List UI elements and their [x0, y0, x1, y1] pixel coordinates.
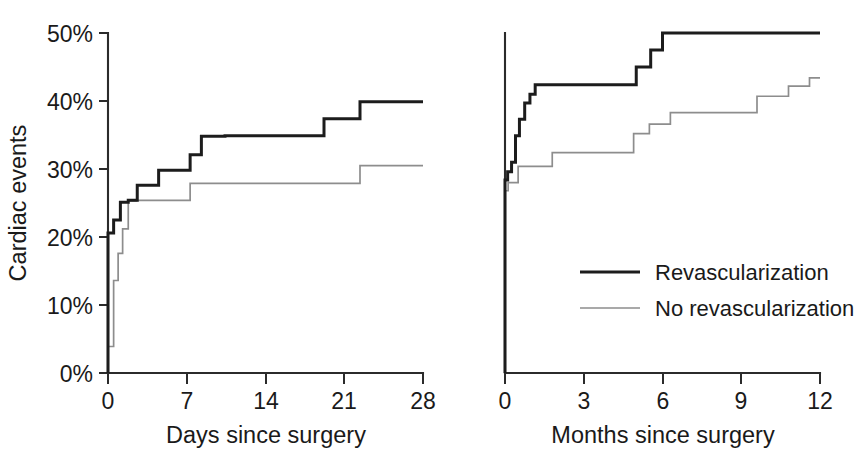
- left-ytick-label-40: 40%: [47, 89, 93, 115]
- left-ytick-label-0: 0%: [60, 361, 93, 387]
- left-xtick-label-7: 7: [181, 388, 194, 414]
- left-x-axis-title: Days since surgery: [166, 422, 366, 448]
- left-ytick-label-10: 10%: [47, 293, 93, 319]
- legend: Revascularization No revascularization: [580, 260, 854, 321]
- right-curve-no-revascularization: [505, 78, 820, 373]
- right-xtick-label-6: 6: [657, 388, 670, 414]
- figure-container: 50% 40% 30% 20% 10% 0% 0 7 14 21: [0, 0, 855, 459]
- left-xtick-label-21: 21: [331, 388, 357, 414]
- legend-label-revascularization: Revascularization: [655, 260, 829, 285]
- left-panel: 50% 40% 30% 20% 10% 0% 0 7 14 21: [5, 21, 436, 448]
- y-axis-title: Cardiac events: [5, 125, 31, 282]
- right-xtick-label-9: 9: [735, 388, 748, 414]
- left-xtick-label-14: 14: [253, 388, 279, 414]
- kaplan-meier-chart: 50% 40% 30% 20% 10% 0% 0 7 14 21: [0, 0, 855, 459]
- right-xtick-label-0: 0: [499, 388, 512, 414]
- right-xtick-label-3: 3: [578, 388, 591, 414]
- right-x-tick-labels: 0 3 6 9 12: [499, 388, 833, 414]
- left-x-tick-labels: 0 7 14 21 28: [102, 388, 436, 414]
- right-curve-revascularization: [505, 33, 820, 373]
- left-ytick-label-30: 30%: [47, 157, 93, 183]
- right-x-axis-title: Months since surgery: [551, 422, 775, 448]
- left-ytick-label-20: 20%: [47, 225, 93, 251]
- left-xtick-label-28: 28: [410, 388, 436, 414]
- right-x-ticks: [505, 373, 820, 384]
- left-xtick-label-0: 0: [102, 388, 115, 414]
- legend-label-no-revascularization: No revascularization: [655, 296, 854, 321]
- left-curve-revascularization: [108, 102, 423, 373]
- left-ytick-label-50: 50%: [47, 21, 93, 47]
- right-xtick-label-12: 12: [807, 388, 833, 414]
- right-panel: 0 3 6 9 12 Months since surgery Revascul…: [499, 33, 855, 448]
- left-y-tick-labels: 50% 40% 30% 20% 10% 0%: [47, 21, 93, 387]
- left-x-ticks: [108, 373, 423, 384]
- left-curve-no-revascularization: [108, 166, 423, 373]
